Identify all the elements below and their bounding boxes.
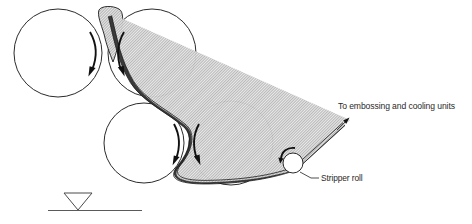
calender-roll-stack-diagram: To embossing and cooling units Stripper … <box>0 0 472 224</box>
top-left-roll <box>14 9 102 97</box>
ground-datum-symbol <box>48 193 142 211</box>
datum-triangle-icon <box>64 193 92 210</box>
stripper-roll-label: Stripper roll <box>321 173 363 183</box>
stripper-roll-leader-line <box>300 172 319 178</box>
stripper-roll-leader <box>300 172 319 178</box>
diagram-canvas: To embossing and cooling units Stripper … <box>0 0 472 224</box>
exit-label: To embossing and cooling units <box>338 101 455 111</box>
stripper-roll <box>283 153 303 173</box>
